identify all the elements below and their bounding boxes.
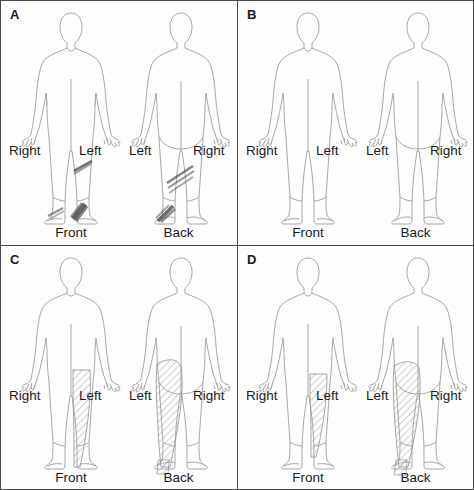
label-back-right: Right	[430, 143, 462, 158]
label-front-left: Left	[316, 143, 339, 158]
label-view-back: Back	[388, 225, 443, 240]
label-back-left: Left	[366, 143, 389, 158]
label-back-right: Right	[193, 143, 225, 158]
marking-back-left-leg	[156, 360, 182, 467]
label-back-right: Right	[430, 388, 462, 403]
label-view-back: Back	[388, 470, 443, 485]
panel-a: A	[1, 1, 238, 246]
marking-front-left-thigh	[310, 374, 327, 457]
label-front-left: Left	[79, 388, 102, 403]
pain-diagram-figure: A	[0, 0, 474, 490]
front-body-outline	[22, 258, 120, 469]
label-view-front: Front	[41, 225, 101, 240]
label-view-back: Back	[151, 225, 206, 240]
marking-back-left-heel	[156, 205, 175, 222]
label-front-right: Right	[9, 143, 41, 158]
front-body-outline	[259, 13, 357, 224]
label-view-front: Front	[41, 470, 101, 485]
label-front-right: Right	[246, 388, 278, 403]
label-back-left: Left	[129, 388, 152, 403]
panel-a-bodies	[1, 1, 238, 246]
back-body-outline	[369, 258, 467, 469]
label-front-right: Right	[9, 388, 41, 403]
marking-front-left-shin	[74, 161, 92, 174]
label-view-front: Front	[278, 225, 338, 240]
front-body-outline	[259, 258, 357, 469]
label-back-left: Left	[129, 143, 152, 158]
marking-front-left-leg	[73, 370, 90, 467]
panel-d-bodies	[238, 246, 474, 490]
label-front-left: Left	[79, 143, 102, 158]
label-view-front: Front	[278, 470, 338, 485]
back-body-outline	[132, 258, 230, 469]
panel-c: C	[1, 246, 238, 490]
marking-back-left-leg	[393, 362, 420, 467]
back-body-outline	[132, 13, 230, 224]
panel-a-markings	[48, 161, 194, 222]
label-back-left: Left	[366, 388, 389, 403]
label-front-right: Right	[246, 143, 278, 158]
panel-b-bodies	[238, 1, 474, 246]
marking-back-left-calf	[167, 166, 194, 193]
panel-d: D	[238, 246, 474, 490]
label-view-back: Back	[151, 470, 206, 485]
front-body-outline	[22, 13, 120, 224]
back-body-outline	[369, 13, 467, 224]
panel-b: B	[238, 1, 474, 246]
label-front-left: Left	[316, 388, 339, 403]
label-back-right: Right	[193, 388, 225, 403]
panel-c-bodies	[1, 246, 238, 490]
